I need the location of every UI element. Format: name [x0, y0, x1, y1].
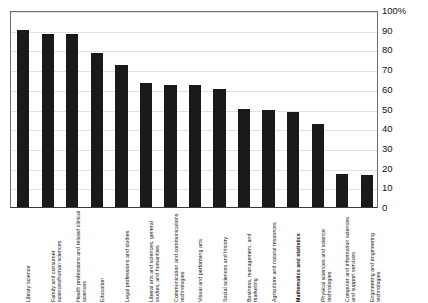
y-axis-tick: 50 [382, 105, 393, 115]
bar [17, 30, 29, 207]
bar [238, 109, 250, 208]
y-axis: 0102030405060708090100% [382, 0, 428, 219]
bar [213, 89, 225, 207]
y-axis-tick: 70 [382, 65, 393, 75]
y-axis-tick: 40 [382, 124, 393, 134]
x-axis-label: Communication and communications technol… [173, 210, 185, 302]
bar-chart: 0102030405060708090100% Library scienceF… [0, 0, 428, 303]
x-axis-label: Business, management, and marketing [246, 210, 258, 302]
x-axis-label: Social sciences and history [222, 210, 228, 302]
x-axis-label: Liberal arts and sciences, general studi… [148, 210, 160, 302]
x-axis-label: Computer and information sciences and su… [344, 210, 356, 302]
bar [140, 83, 152, 207]
x-axis-label: Engineering and engineering technologies [369, 210, 381, 302]
x-axis-label: Family and consumer sciences/human scien… [50, 210, 62, 302]
bar [91, 53, 103, 207]
y-axis-tick: 20 [382, 164, 393, 174]
y-axis-tick: 80 [382, 45, 393, 55]
bar [312, 124, 324, 207]
x-axis-label: Education [99, 210, 105, 302]
bar [164, 85, 176, 207]
x-axis-label: Health professions and related clinical … [75, 210, 87, 302]
x-axis-label: Physical sciences and science technologi… [320, 210, 332, 302]
x-axis-labels: Library scienceFamily and consumer scien… [10, 210, 378, 303]
y-axis-tick: 60 [382, 85, 393, 95]
bar [189, 85, 201, 207]
x-axis-label: Library science [25, 210, 31, 302]
plot-area [10, 11, 378, 208]
y-axis-tick: 100% [382, 6, 406, 16]
bar [361, 175, 373, 207]
bar [336, 174, 348, 207]
bar [66, 34, 78, 207]
y-axis-tick: 90 [382, 26, 393, 36]
x-axis-label: Visual and performing arts [197, 210, 203, 302]
x-axis-label: Mathematics and statistics [295, 210, 301, 302]
bars-container [11, 12, 377, 207]
bar [287, 112, 299, 207]
bar [262, 110, 274, 207]
y-axis-tick: 0 [382, 203, 387, 213]
y-axis-tick: 30 [382, 144, 393, 154]
x-axis-label: Agriculture and natural resources [271, 210, 277, 302]
y-axis-tick: 10 [382, 183, 393, 193]
bar [115, 65, 127, 207]
bar [42, 34, 54, 207]
x-axis-label: Legal professions and studies [124, 210, 130, 302]
